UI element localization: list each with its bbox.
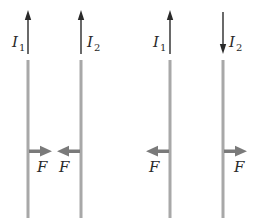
current-arrow-down-icon	[220, 12, 226, 54]
current-subscript-1: 1	[19, 42, 25, 53]
panel-antiparallel-currents: I 1 I 2 F F	[146, 10, 247, 218]
current-subscript-2: 2	[236, 42, 242, 53]
force-label-f2: F	[233, 158, 245, 176]
wire-2	[80, 60, 83, 218]
force-arrow-left-icon	[146, 146, 169, 157]
current-arrow-up-icon	[25, 10, 31, 54]
current-subscript-2: 2	[94, 42, 100, 53]
panel-parallel-currents: I 1 I 2 F F	[11, 10, 100, 218]
current-label-i1: I	[11, 33, 19, 51]
wire-3	[169, 60, 172, 218]
force-arrow-right-icon	[29, 146, 52, 157]
current-subscript-1: 1	[160, 42, 166, 53]
magnetic-force-diagram: I 1 I 2 F F I 1	[0, 0, 261, 224]
wire-1	[27, 60, 30, 218]
current-arrow-up-icon	[167, 10, 173, 54]
current-label-i1: I	[152, 33, 160, 51]
force-label-f1: F	[36, 158, 48, 176]
force-arrow-left-icon	[57, 146, 80, 157]
force-label-f2: F	[58, 158, 70, 176]
current-label-i2: I	[228, 33, 236, 51]
current-arrow-up-icon	[78, 10, 84, 54]
current-label-i2: I	[86, 33, 94, 51]
wire-4	[222, 60, 225, 218]
force-label-f1: F	[148, 158, 160, 176]
force-arrow-right-icon	[224, 146, 247, 157]
